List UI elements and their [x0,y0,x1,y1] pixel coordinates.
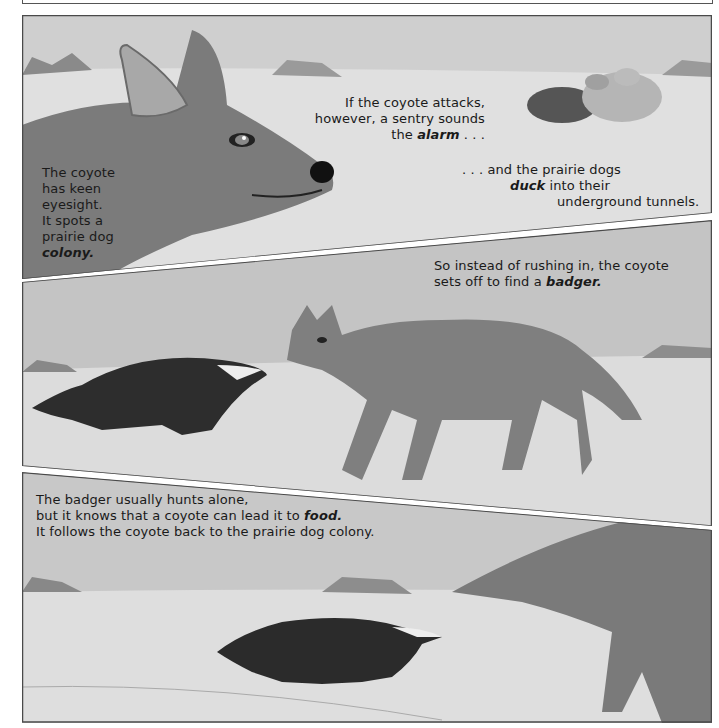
caption-prairie-dogs-duck: . . . and the prairie dogs duck into the… [462,162,712,210]
caption-badger-follows: The badger usually hunts alone, but it k… [36,492,374,540]
previous-panel-frame [22,0,713,4]
caption-coyote-eyesight: The coyote has keen eyesight. It spots a… [42,165,115,261]
caption-sentry-alarm: If the coyote attacks, however, a sentry… [272,95,485,143]
caption-find-badger: So instead of rushing in, the coyote set… [434,258,669,290]
